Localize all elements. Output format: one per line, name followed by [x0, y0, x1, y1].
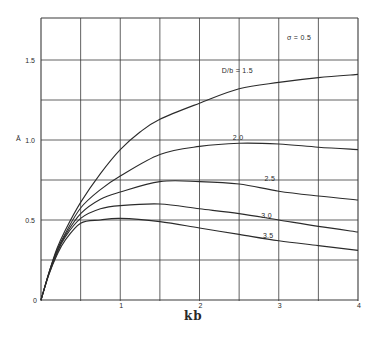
curve-label: 3.0 [261, 212, 272, 219]
x-tick-label: 0 [33, 297, 37, 304]
grid-lines [41, 18, 358, 301]
curve-label: 2.5 [264, 175, 275, 182]
curve-label: 3.5 [263, 232, 274, 239]
curve-label: D/b = 1.5 [222, 67, 253, 74]
curve-labels: D/b = 1.52.02.53.03.5 [222, 67, 275, 240]
x-tick-label: 1 [119, 302, 123, 309]
x-axis-label: kb [184, 309, 203, 323]
y-tick-label: 1.5 [25, 57, 35, 64]
tick-labels: 012340.51.01.5 [25, 57, 361, 310]
x-tick-label: 3 [278, 302, 282, 309]
y-tick-label: 0.5 [25, 217, 35, 224]
x-tick-label: 2 [199, 302, 203, 309]
x-tick-label: 4 [357, 302, 361, 309]
chart: D/b = 1.52.02.53.03.5 012340.51.01.5 kb … [0, 0, 374, 337]
curve-label: 2.0 [233, 134, 244, 141]
sigma-annotation: σ = 0.5 [287, 34, 311, 41]
y-axis-label: Ā [16, 135, 21, 142]
y-tick-label: 1.0 [25, 137, 35, 144]
